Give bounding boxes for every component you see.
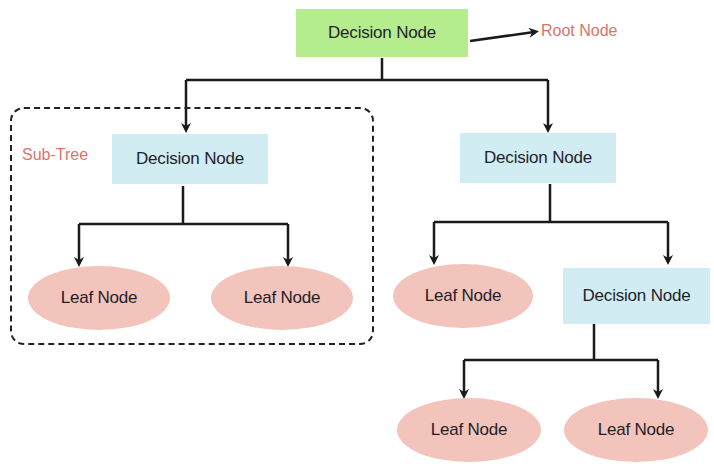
leaf-node-4: Leaf Node xyxy=(397,398,541,462)
leaf-node-1: Leaf Node xyxy=(28,266,170,330)
decision-tree-diagram: Sub-Tree Decision Node Root Node Decisio… xyxy=(0,0,714,467)
root-decision-node: Decision Node xyxy=(296,9,468,57)
right-decision-node: Decision Node xyxy=(460,133,616,183)
leaf-node-5: Leaf Node xyxy=(564,398,708,462)
leaf-node-3: Leaf Node xyxy=(393,264,533,328)
left-decision-node: Decision Node xyxy=(112,134,268,184)
subtree-label: Sub-Tree xyxy=(22,146,88,164)
leaf-node-2: Leaf Node xyxy=(211,266,353,330)
root-node-annotation: Root Node xyxy=(541,22,618,40)
lower-decision-node: Decision Node xyxy=(563,268,710,324)
